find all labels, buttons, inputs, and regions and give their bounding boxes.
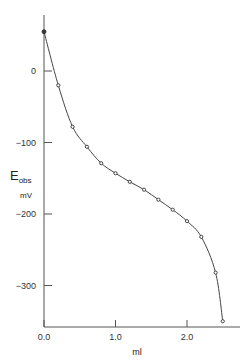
y-tick-label: −100 xyxy=(16,138,36,148)
data-point xyxy=(157,198,160,201)
data-curve xyxy=(44,32,223,322)
data-point xyxy=(42,30,46,34)
x-tick-label: 2.0 xyxy=(181,332,194,342)
data-point xyxy=(85,145,88,148)
y-axis-label: Eobs xyxy=(10,168,32,185)
data-point xyxy=(214,271,217,274)
y-tick-label: −300 xyxy=(16,281,36,291)
plot-area: 0−100−200−3000.01.02.0mlEobsmV xyxy=(0,0,252,361)
x-tick-label: 1.0 xyxy=(109,332,122,342)
x-axis-label: ml xyxy=(132,347,142,357)
x-tick-label: 0.0 xyxy=(38,332,51,342)
data-point xyxy=(185,220,188,223)
data-point xyxy=(57,84,60,87)
data-point xyxy=(200,235,203,238)
chart: 0−100−200−3000.01.02.0mlEobsmV xyxy=(0,0,252,361)
data-point xyxy=(143,188,146,191)
data-point xyxy=(128,180,131,183)
y-tick-label: −200 xyxy=(16,209,36,219)
y-axis-unit: mV xyxy=(20,191,33,200)
data-point xyxy=(100,162,103,165)
data-point xyxy=(221,320,224,323)
y-tick-label: 0 xyxy=(31,66,36,76)
data-point xyxy=(114,172,117,175)
data-point xyxy=(71,125,74,128)
data-point xyxy=(171,208,174,211)
